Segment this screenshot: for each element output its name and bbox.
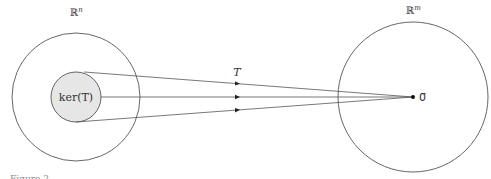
kernel-label: ker(T) xyxy=(59,91,93,104)
figure-caption: Figure 2 xyxy=(10,174,49,179)
domain-space-label: ℝn xyxy=(70,6,83,18)
map-label: T xyxy=(233,66,242,79)
zero-vector-point xyxy=(411,95,415,99)
codomain-space-label: ℝm xyxy=(406,4,421,16)
mapping-line-bottom xyxy=(76,97,413,122)
mapping-line-top xyxy=(84,72,413,97)
zero-vector-label: 0⃗ xyxy=(419,91,426,104)
kernel-diagram: ℝn ker(T) T ℝm 0⃗ Figure 2 xyxy=(0,0,491,179)
